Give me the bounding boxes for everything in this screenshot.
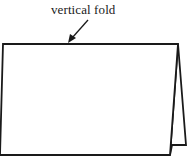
front-panel [0, 44, 178, 155]
folded-card-diagram [0, 0, 195, 162]
arrow [68, 20, 88, 43]
